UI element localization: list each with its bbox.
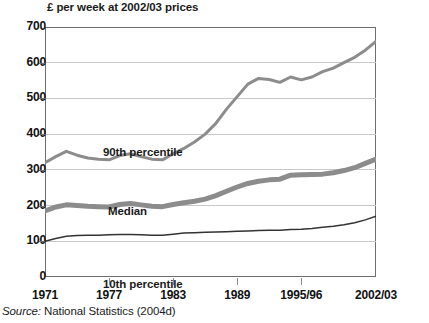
plot-area: 90th percentile Median 10th percentile — [45, 27, 376, 277]
y-tick-label: 700 — [4, 19, 46, 33]
chart-figure: £ per week at 2002/03 prices 90th percen… — [0, 0, 429, 323]
y-tick-mark — [39, 241, 45, 242]
series-label-median: Median — [108, 205, 147, 217]
source-label: Source: — [2, 305, 41, 317]
x-tick-mark — [237, 278, 238, 285]
series-line-90th-percentile — [45, 41, 376, 162]
x-tick-mark — [173, 278, 174, 285]
series-line-median — [45, 159, 376, 211]
x-tick-mark — [109, 278, 110, 285]
y-tick-label: 200 — [4, 198, 46, 212]
x-tick-label: 2002/03 — [355, 288, 397, 302]
x-tick-label: 1971 — [32, 288, 58, 302]
series-line-10th-percentile — [45, 216, 376, 241]
y-tick-mark — [39, 206, 45, 207]
y-tick-mark — [39, 98, 45, 99]
y-tick-mark — [39, 134, 45, 135]
y-tick-mark — [39, 63, 45, 64]
x-tick-label: 1983 — [160, 288, 186, 302]
chart-title: £ per week at 2002/03 prices — [47, 1, 198, 13]
series-label-p90: 90th percentile — [103, 146, 183, 158]
plot-lines — [45, 27, 376, 277]
x-tick-mark — [301, 278, 302, 285]
x-tick-label: 1977 — [96, 288, 122, 302]
y-tick-label: 300 — [4, 162, 46, 176]
y-tick-label: 0 — [4, 269, 46, 283]
x-tick-label: 1989 — [224, 288, 250, 302]
y-tick-label: 600 — [4, 55, 46, 69]
source-text: National Statistics (2004d) — [44, 305, 176, 317]
x-tick-label: 1995/96 — [280, 288, 322, 302]
source-note: Source: National Statistics (2004d) — [2, 305, 176, 317]
y-tick-mark — [39, 170, 45, 171]
